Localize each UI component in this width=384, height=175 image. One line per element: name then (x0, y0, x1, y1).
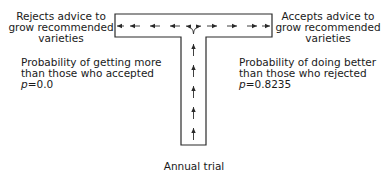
left-outcome-line-3: varieties (8, 33, 114, 44)
right-p-value: p=0.8235 (239, 79, 376, 90)
p-symbol: p (239, 78, 246, 90)
p-value: =0.8235 (246, 78, 292, 90)
left-probability-text: Probability of getting more than those w… (21, 57, 161, 90)
right-outcome-label: Accepts advice to grow recommended varie… (274, 11, 382, 44)
right-outcome-line-3: varieties (274, 33, 382, 44)
left-outcome-label: Rejects advice to grow recommended varie… (8, 11, 114, 44)
p-value: =0.0 (28, 78, 54, 90)
p-symbol: p (21, 78, 28, 90)
junction-split-left (186, 26, 194, 34)
junction-split-right (194, 26, 202, 34)
stem-label: Annual trial (144, 161, 244, 172)
right-probability-text: Probability of doing better than those w… (239, 57, 376, 90)
left-p-value: p=0.0 (21, 79, 161, 90)
